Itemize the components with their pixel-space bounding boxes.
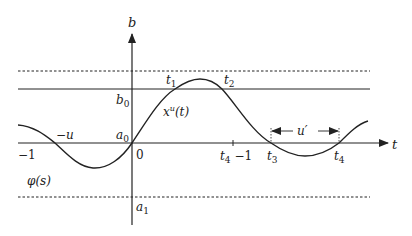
a1-label: a1 [136, 200, 149, 216]
t1-label: t1 [166, 73, 177, 89]
curve-label: xu(t) [163, 104, 189, 119]
t4-label: t4 [334, 149, 345, 165]
neg-one-label: −1 [18, 148, 36, 162]
t3-label: t3 [267, 149, 278, 165]
u-prime-label: u′ [297, 124, 308, 138]
a0-label: a0 [116, 128, 129, 144]
diagram-canvas: b t b0 a0 a1 t1 t2 t3 t4 t4 −1 xu(t) φ(s… [0, 0, 412, 236]
b0-label: b0 [116, 93, 130, 109]
phi-label: φ(s) [27, 174, 51, 188]
zero-label: 0 [136, 148, 144, 162]
t2-label: t2 [224, 73, 235, 89]
neg-u-label: −u [56, 128, 74, 142]
t4-minus-1-label: t4 −1 [220, 149, 252, 165]
b-axis-label: b [128, 15, 136, 30]
t-axis-label: t [392, 137, 398, 152]
curve-xu [18, 79, 368, 168]
